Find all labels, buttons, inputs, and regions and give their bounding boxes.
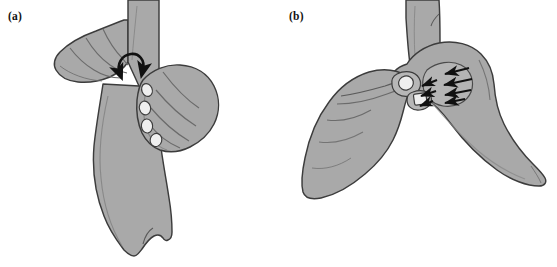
panel-a-illustration	[0, 0, 279, 267]
panel-b: (b)	[279, 0, 557, 267]
panel-a: (a)	[0, 0, 279, 267]
examiner-grasping-hand-a	[137, 65, 219, 152]
patient-hand-and-arm-b	[392, 42, 546, 186]
panel-b-illustration	[279, 0, 557, 267]
patient-hand-flexed-a	[54, 20, 128, 82]
examiner-pinching-hand-b	[302, 70, 431, 199]
figure-root: (a)	[0, 0, 557, 267]
